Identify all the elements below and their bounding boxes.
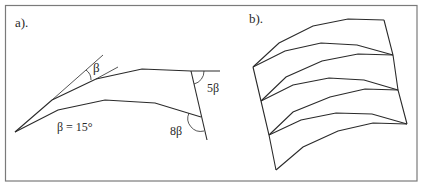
panel-b-right-edge bbox=[384, 20, 407, 124]
panel-a-label: a). bbox=[15, 15, 28, 30]
panel-b-left-edge bbox=[253, 67, 276, 170]
panel-b-curve-5 bbox=[269, 89, 398, 135]
panel-b bbox=[253, 19, 407, 170]
panel-a-beta-arc bbox=[86, 70, 91, 80]
panel-a-5beta-label: 5β bbox=[207, 81, 219, 95]
panel-a-beta-value: β = 15° bbox=[57, 120, 93, 134]
panel-b-curve-6 bbox=[269, 113, 407, 135]
panel-b-curve-7 bbox=[276, 123, 407, 170]
panel-b-curve-3 bbox=[261, 54, 393, 101]
figure: a). β β = 15° 5β 8β b). bbox=[0, 0, 427, 189]
panel-b-curve-2 bbox=[253, 43, 393, 67]
panel-a-5beta-arc bbox=[194, 71, 204, 84]
panel-a bbox=[15, 55, 220, 140]
panel-b-label: b). bbox=[249, 11, 263, 26]
panel-a-beta-label: β bbox=[93, 60, 100, 75]
panel-a-8beta-label: 8β bbox=[170, 124, 182, 138]
